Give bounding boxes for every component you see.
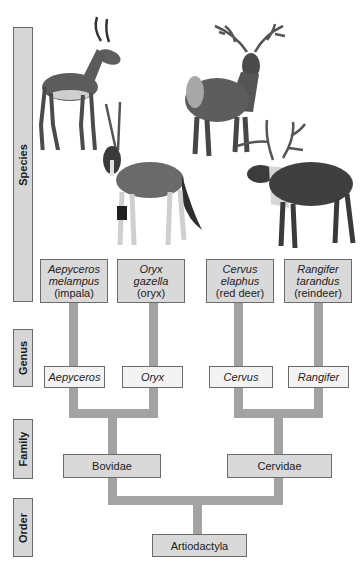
species-epithet: elaphus xyxy=(221,275,260,287)
species-epithet: melampus xyxy=(49,275,100,287)
species-box-red-deer: Cervus elaphus (red deer) xyxy=(206,259,274,303)
oryx-illustration xyxy=(92,100,207,250)
species-genus-name: Oryx xyxy=(139,263,162,275)
connector-cervus xyxy=(234,302,243,418)
rank-label-order: Order xyxy=(13,498,33,557)
species-genus-name: Aepyceros xyxy=(48,263,100,275)
genus-label: Rangifer xyxy=(298,371,340,383)
family-label: Cervidae xyxy=(257,460,301,472)
species-common-name: (impala) xyxy=(54,287,94,299)
rank-label-genus: Genus xyxy=(13,329,33,387)
rank-label-species: Species xyxy=(13,27,33,302)
rank-label-order-text: Order xyxy=(17,513,29,543)
genus-label: Oryx xyxy=(141,371,164,383)
species-common-name: (red deer) xyxy=(216,287,264,299)
rank-label-family: Family xyxy=(13,419,33,479)
connector-cervidae-stem xyxy=(274,409,283,455)
species-epithet: gazella xyxy=(134,275,169,287)
genus-label: Aepyceros xyxy=(49,371,101,383)
species-box-oryx: Oryx gazella (oryx) xyxy=(117,259,185,303)
genus-box-aepyceros: Aepyceros xyxy=(44,366,105,388)
family-box-cervidae: Cervidae xyxy=(227,454,332,478)
species-common-name: (reindeer) xyxy=(294,287,342,299)
genus-label: Cervus xyxy=(224,371,259,383)
connector-oryx xyxy=(149,302,158,418)
genus-box-cervus: Cervus xyxy=(209,366,273,388)
rank-label-genus-text: Genus xyxy=(17,341,29,375)
genus-box-rangifer: Rangifer xyxy=(288,366,349,388)
family-box-bovidae: Bovidae xyxy=(63,454,161,478)
connector-rangifer xyxy=(314,302,323,418)
reindeer-illustration xyxy=(235,118,360,253)
species-box-reindeer: Rangifer tarandus (reindeer) xyxy=(284,259,352,303)
connector-aepyceros xyxy=(69,302,78,418)
connector-bovidae-stem xyxy=(108,409,117,455)
genus-box-oryx: Oryx xyxy=(122,366,183,388)
species-genus-name: Cervus xyxy=(223,263,258,275)
species-genus-name: Rangifer xyxy=(297,263,339,275)
rank-label-species-text: Species xyxy=(17,144,29,186)
species-common-name: (oryx) xyxy=(137,287,165,299)
family-label: Bovidae xyxy=(92,460,132,472)
order-box-artiodactyla: Artiodactyla xyxy=(152,534,247,557)
species-box-impala: Aepyceros melampus (impala) xyxy=(40,259,108,303)
species-epithet: tarandus xyxy=(297,275,340,287)
order-label: Artiodactyla xyxy=(171,540,228,552)
rank-label-family-text: Family xyxy=(17,432,29,467)
connector-order-stem xyxy=(193,496,202,535)
